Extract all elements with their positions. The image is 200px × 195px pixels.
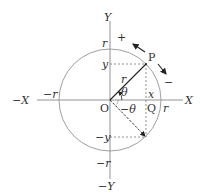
radius-op (110, 64, 146, 100)
clockwise-arrow-icon (158, 64, 166, 74)
label-r-top: r (102, 37, 108, 50)
label-point-q: Q (147, 102, 156, 115)
label-neg-theta: −θ (120, 103, 136, 116)
label-y-axis: Y (104, 11, 113, 24)
label-x-axis: X (184, 94, 194, 107)
label-point-p: P (148, 51, 156, 64)
label-neg-y-coord: −y (95, 131, 111, 144)
label-neg-x-axis: −X (12, 94, 30, 107)
unit-circle-diagram: Y −Y X −X r −r −r r + − P y −y r θ −θ x … (0, 0, 200, 195)
label-y-coord: y (101, 58, 109, 71)
counterclockwise-arrow-icon (133, 44, 145, 52)
label-radius: r (121, 73, 127, 86)
neg-theta-arc (116, 100, 118, 106)
label-plus: + (117, 31, 126, 44)
label-r-left: −r (43, 88, 58, 101)
label-neg-y-axis: −Y (98, 180, 116, 193)
point-p-dot (145, 63, 147, 65)
label-x-coord: x (148, 88, 155, 101)
label-theta: θ (121, 86, 128, 99)
label-r-right: r (163, 102, 169, 115)
label-minus: − (164, 76, 173, 89)
label-origin: O (100, 102, 109, 115)
label-r-bottom: −r (96, 157, 111, 170)
